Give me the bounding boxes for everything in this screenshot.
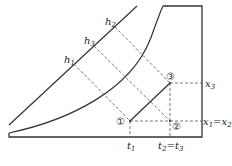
- label-x3: x3: [205, 78, 216, 91]
- process-line-1-to-3: [130, 83, 170, 121]
- label-point-2: ②: [172, 121, 181, 132]
- saturation-curve: [9, 6, 163, 133]
- label-t2-eq-t3: t2=t3: [158, 140, 184, 153]
- h3-dashed-line: [94, 46, 170, 121]
- label-h3: h3: [84, 35, 95, 48]
- point-3-marker: [169, 82, 171, 84]
- psychrometric-diagram: h1 h3 h2 ① ② ③ x3 x1=x2 t1 t2=t3: [0, 0, 232, 166]
- label-h1: h1: [64, 54, 75, 67]
- point-1-marker: [129, 120, 131, 122]
- diagram-svg: h1 h3 h2 ① ② ③ x3 x1=x2 t1 t2=t3: [0, 0, 232, 166]
- label-point-3: ③: [166, 71, 175, 82]
- h1-dashed-line: [74, 64, 130, 121]
- label-t1: t1: [127, 140, 136, 153]
- label-point-1: ①: [116, 116, 125, 127]
- label-x1-eq-x2: x1=x2: [203, 116, 232, 129]
- label-h2: h2: [105, 16, 116, 29]
- point-2-marker: [169, 120, 171, 122]
